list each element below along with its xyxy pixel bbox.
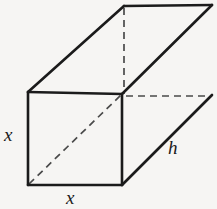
label-x-width: x [66,188,74,207]
label-h-depth: h [168,138,178,157]
bottom-right-receding-edge-line [122,95,212,185]
box-diagram-figure: x x h [0,0,217,209]
top-left-receding-edge-line [28,6,124,92]
top-right-receding-edge-line [122,5,212,94]
front-face-diagonal-line [29,95,121,184]
box-diagram-canvas [0,0,217,209]
back-top-edge-line [124,5,212,6]
label-x-height: x [4,125,12,144]
front-top-edge-line [28,92,122,94]
